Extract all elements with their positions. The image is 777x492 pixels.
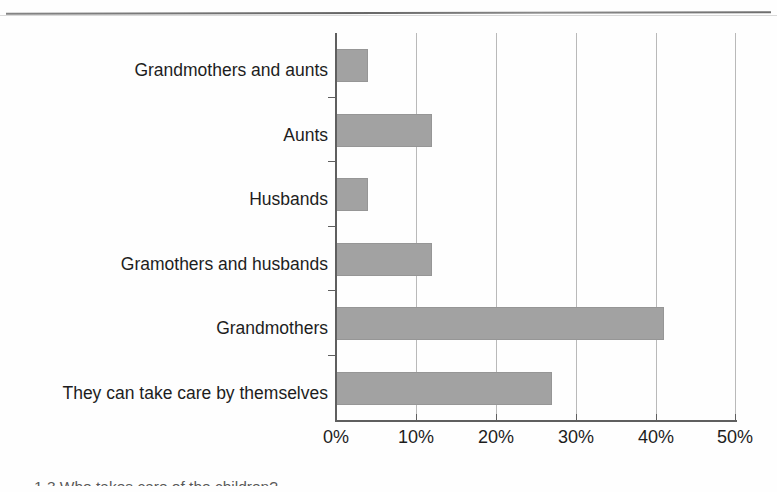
y-axis-tick [328, 290, 336, 291]
x-axis-tick [416, 414, 417, 422]
bar-row [336, 227, 736, 292]
x-axis-tick [735, 414, 736, 422]
category-label-they-can-take-care-by-themselves: They can take care by themselves [0, 383, 328, 404]
category-label-text: Gramothers and husbands [121, 254, 328, 274]
category-label-aunts: Aunts [0, 125, 328, 146]
x-axis-line [336, 420, 737, 422]
category-label-gramothers-and-husbands: Gramothers and husbands [0, 254, 328, 275]
category-label-grandmothers-and-aunts: Grandmothers and aunts [0, 60, 328, 81]
category-label-grandmothers: Grandmothers [0, 318, 328, 339]
x-axis-label-text: 30% [558, 427, 594, 447]
bar-row [336, 162, 736, 227]
y-axis-line [335, 33, 337, 422]
plot-area [336, 33, 736, 420]
x-axis-tick [336, 414, 337, 422]
category-label-text: Grandmothers and aunts [134, 60, 328, 80]
x-axis-tick [496, 414, 497, 422]
y-axis-tick [328, 161, 336, 162]
bar-row [336, 98, 736, 163]
bar-row [336, 291, 736, 356]
x-axis-label-30: 30% [541, 427, 611, 448]
bar-aunts[interactable] [336, 114, 432, 147]
x-axis-label-text: 40% [638, 427, 674, 447]
bar-grandmothers[interactable] [336, 307, 664, 340]
category-label-text: Grandmothers [216, 318, 328, 338]
x-axis-label-50: 50% [700, 427, 770, 448]
y-axis-tick [328, 226, 336, 227]
bar-row [336, 33, 736, 98]
bar-they-can-take-care-by-themselves[interactable] [336, 372, 552, 405]
category-label-text: Aunts [283, 125, 328, 145]
x-axis-tick [656, 414, 657, 422]
y-axis-tick [328, 97, 336, 98]
category-label-text: Husbands [249, 189, 328, 209]
x-axis-label-text: 50% [717, 427, 753, 447]
category-label-husbands: Husbands [0, 189, 328, 210]
x-axis-label-text: 20% [478, 427, 514, 447]
x-axis-label-40: 40% [621, 427, 691, 448]
x-axis-label-text: 10% [398, 427, 434, 447]
bar-gramothers-and-husbands[interactable] [336, 243, 432, 276]
x-axis-label-10: 10% [381, 427, 451, 448]
bar-chart: Grandmothers and aunts Aunts Husbands Gr… [0, 0, 777, 492]
bar-grandmothers-and-aunts[interactable] [336, 49, 368, 82]
x-axis-label-text: 0% [323, 427, 349, 447]
scanned-page: Grandmothers and aunts Aunts Husbands Gr… [0, 0, 777, 492]
bar-row [336, 356, 736, 421]
x-axis-tick [576, 414, 577, 422]
bar-husbands[interactable] [336, 178, 368, 211]
y-axis-tick [328, 355, 336, 356]
category-label-text: They can take care by themselves [62, 383, 328, 403]
x-axis-label-20: 20% [461, 427, 531, 448]
x-axis-label-0: 0% [301, 427, 371, 448]
